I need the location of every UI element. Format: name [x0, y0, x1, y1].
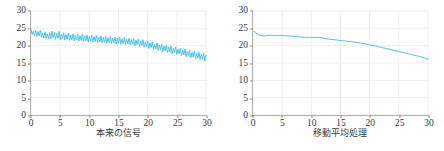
x-tick-mark	[31, 115, 32, 118]
panel-moving-average: 051015202530051015202530 移動平均処理	[222, 0, 444, 151]
figure-two-panel-line-charts: 051015202530051015202530 本来の信号 051015202…	[0, 0, 444, 151]
x-tick-label: 25	[395, 119, 405, 129]
x-tick-mark	[429, 115, 430, 118]
y-tick-label: 5	[21, 94, 26, 104]
y-tick-mark	[28, 11, 31, 12]
x-tick-label: 30	[424, 119, 434, 129]
y-tick-label: 0	[243, 111, 248, 121]
x-tick-label: 5	[280, 119, 285, 129]
x-tick-mark	[341, 115, 342, 118]
y-tick-mark	[250, 98, 253, 99]
y-tick-mark	[28, 63, 31, 64]
panel-original-signal: 051015202530051015202530 本来の信号	[0, 0, 222, 151]
y-tick-label: 30	[239, 6, 249, 16]
x-tick-mark	[370, 115, 371, 118]
y-tick-label: 20	[239, 41, 249, 51]
x-tick-mark	[89, 115, 90, 118]
y-tick-mark	[28, 98, 31, 99]
x-tick-label: 25	[173, 119, 183, 129]
data-line-moving-average	[253, 11, 428, 115]
x-tick-mark	[282, 115, 283, 118]
plot-area-original-signal: 051015202530051015202530	[30, 11, 206, 116]
x-tick-mark	[253, 115, 254, 118]
y-tick-mark	[250, 46, 253, 47]
y-tick-label: 10	[239, 76, 249, 86]
y-tick-mark	[250, 28, 253, 29]
y-tick-label: 20	[17, 41, 27, 51]
x-tick-label: 30	[202, 119, 212, 129]
caption-moving-average: 移動平均処理	[252, 129, 428, 138]
x-tick-mark	[119, 115, 120, 118]
x-tick-mark	[207, 115, 208, 118]
y-tick-label: 10	[17, 76, 27, 86]
y-tick-label: 30	[17, 6, 27, 16]
y-tick-mark	[250, 11, 253, 12]
data-line-original-signal	[31, 11, 206, 115]
x-tick-label: 10	[85, 119, 95, 129]
y-tick-mark	[28, 46, 31, 47]
x-tick-label: 5	[58, 119, 63, 129]
x-tick-label: 20	[144, 119, 154, 129]
plot-area-moving-average: 051015202530051015202530	[252, 11, 428, 116]
caption-original-signal: 本来の信号	[30, 129, 206, 138]
x-tick-mark	[60, 115, 61, 118]
x-tick-mark	[148, 115, 149, 118]
y-tick-label: 25	[17, 24, 27, 34]
x-tick-label: 0	[251, 119, 256, 129]
y-tick-label: 15	[239, 59, 249, 69]
y-tick-mark	[28, 28, 31, 29]
x-tick-mark	[399, 115, 400, 118]
y-tick-label: 0	[21, 111, 26, 121]
y-tick-mark	[250, 81, 253, 82]
y-tick-label: 15	[17, 59, 27, 69]
y-tick-mark	[28, 81, 31, 82]
y-tick-label: 5	[243, 94, 248, 104]
x-tick-mark	[311, 115, 312, 118]
y-tick-label: 25	[239, 24, 249, 34]
x-tick-label: 20	[366, 119, 376, 129]
x-tick-label: 0	[29, 119, 34, 129]
y-tick-mark	[250, 63, 253, 64]
x-tick-mark	[177, 115, 178, 118]
